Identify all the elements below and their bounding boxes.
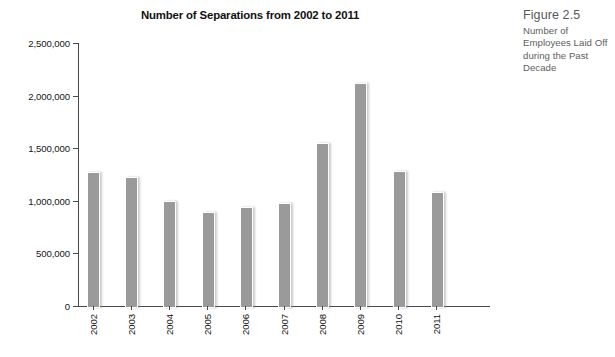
chart-title: Number of Separations from 2002 to 2011 <box>0 9 500 21</box>
y-axis-tick-label: 500,000 <box>36 248 70 259</box>
figure-number: Figure 2.5 <box>523 8 615 22</box>
x-axis-tick-label: 2006 <box>240 314 251 335</box>
x-axis-tick-label: 2007 <box>279 314 290 335</box>
y-axis-tick <box>73 201 78 202</box>
y-axis-tick-label: 2,000,000 <box>28 90 70 101</box>
x-axis-tick-label: 2010 <box>393 314 404 335</box>
y-axis-tick-label: 1,500,000 <box>28 143 70 154</box>
figure-description: Number of Employees Laid Off during the … <box>523 25 615 75</box>
y-axis-tick <box>73 43 78 44</box>
x-axis-tick <box>93 306 94 310</box>
y-axis-tick-label: 2,500,000 <box>28 38 70 49</box>
y-axis-tick-label: 1,000,000 <box>28 195 70 206</box>
bar <box>393 171 406 308</box>
bar <box>278 203 291 308</box>
x-axis-tick <box>131 306 132 310</box>
bar <box>202 212 215 308</box>
bar <box>87 172 100 308</box>
x-axis-tick-label: 2002 <box>88 314 99 335</box>
bar <box>316 143 329 308</box>
x-axis-tick-label: 2005 <box>202 314 213 335</box>
plot-area: 0500,0001,000,0001,500,0002,000,0002,500… <box>78 43 490 306</box>
y-axis-line <box>78 43 79 306</box>
x-axis-tick <box>322 306 323 310</box>
chart-figure: Number of Separations from 2002 to 2011 … <box>0 0 510 357</box>
x-axis-tick <box>360 306 361 310</box>
y-axis-tick <box>73 148 78 149</box>
bar <box>354 83 367 308</box>
x-axis-tick <box>284 306 285 310</box>
x-axis-tick-label: 2011 <box>431 314 442 334</box>
x-axis-tick <box>169 306 170 310</box>
bar <box>125 177 138 308</box>
x-axis-tick <box>398 306 399 310</box>
y-axis-tick-label: 0 <box>65 301 70 312</box>
y-axis-tick <box>73 253 78 254</box>
x-axis-tick <box>245 306 246 310</box>
figure-caption: Figure 2.5 Number of Employees Laid Off … <box>523 8 615 75</box>
y-axis-tick <box>73 96 78 97</box>
x-axis-tick-label: 2003 <box>126 314 137 335</box>
x-axis-tick-label: 2009 <box>355 314 366 335</box>
bar <box>240 207 253 308</box>
x-axis-tick-label: 2004 <box>164 314 175 335</box>
x-axis-tick <box>436 306 437 310</box>
y-axis-tick <box>73 306 78 307</box>
bar <box>163 201 176 308</box>
bar <box>431 192 444 308</box>
x-axis-tick <box>207 306 208 310</box>
x-axis-tick-label: 2008 <box>317 314 328 335</box>
